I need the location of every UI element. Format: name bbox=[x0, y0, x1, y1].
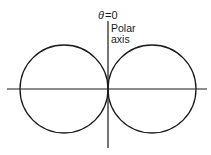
polar-diagram: θ =0 Polar axis bbox=[0, 0, 211, 155]
polar-label-line2: axis bbox=[111, 33, 130, 45]
equals-zero-label: =0 bbox=[105, 9, 118, 21]
theta-label: θ bbox=[98, 9, 104, 21]
